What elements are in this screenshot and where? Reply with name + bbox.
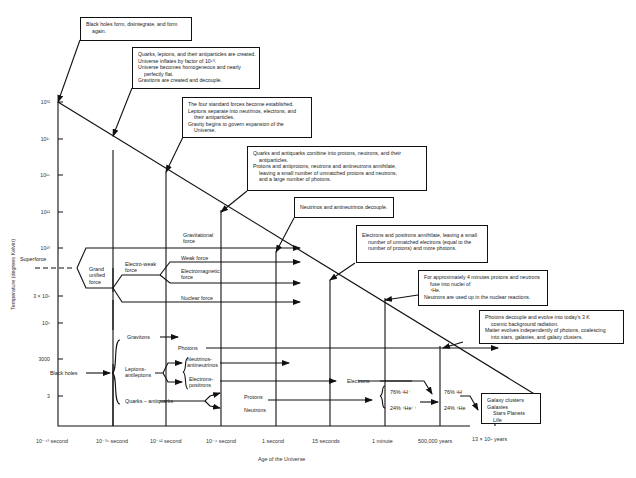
note-line: perfectly flat. [138, 71, 254, 78]
gravitons-label: Gravitons [127, 334, 150, 340]
protons-label: Protons [244, 394, 263, 400]
note-structures: Galaxy clusters Galaxies Stars Planets L… [481, 393, 541, 424]
y-tick: 10³² [16, 99, 50, 105]
label-line: force [181, 274, 220, 280]
weak-force-label: Weak force [181, 255, 208, 261]
note-line: again. [86, 28, 186, 35]
note-line: Protons and antiprotons, neutrons and an… [253, 163, 421, 170]
x-tick: 13 × 10⁹ years [472, 436, 507, 442]
label-line: force [183, 238, 213, 244]
helium-ion-label: 24% ⁴He⁺⁺ [390, 405, 418, 411]
y-tick: 10¹⁵ [16, 172, 50, 178]
note-line: Leptons separate into neutrinos, electro… [188, 108, 306, 115]
note-line: into stars, galaxies, and galaxy cluster… [485, 334, 618, 341]
electroweak-label: Electro-weak force [125, 261, 156, 274]
note-line: ⁴He. [424, 287, 542, 294]
electrons-label: Electrons [347, 378, 369, 384]
electrons-positrons-label: Electrons- positrons [189, 376, 213, 389]
photons-label: Photons [178, 345, 198, 351]
electromagnetic-force-label: Electromagnetic force [181, 268, 220, 281]
label-line: positrons [189, 382, 213, 388]
note-quarks-combine: Quarks and antiquarks combine into proto… [247, 146, 427, 191]
note-line: antiparticles. [253, 157, 421, 164]
note-line: Gravity begins to govern expansion of th… [188, 121, 306, 128]
note-line: Galaxy clusters [487, 397, 535, 404]
note-line: Universe. [188, 127, 306, 134]
note-line: Life [487, 417, 535, 424]
y-tick: 10¹² [16, 209, 50, 215]
note-line: Quarks and antiquarks combine into proto… [253, 150, 421, 157]
note-nucleosynthesis: For approximately 4 minutes protons and … [418, 270, 548, 306]
helium-atom-label: 24% ⁴He [444, 405, 466, 411]
grand-unified-label: Grand unified force [89, 266, 105, 285]
leptons-label: Leptons- antileptons [125, 366, 151, 379]
y-tick: 10²⁷ [16, 136, 50, 142]
note-line: Matter evolves independently of photons,… [485, 327, 618, 334]
note-line: their antiparticles. [188, 114, 306, 121]
note-line: Universe inflates by factor of 10⁵⁰. [138, 58, 254, 65]
label-line: antileptons [125, 372, 151, 378]
note-line: Galaxies [487, 404, 535, 411]
hydrogen-ion-label: 76% ¹H⁺ [390, 389, 411, 395]
hydrogen-atom-label: 76% ¹H [444, 389, 462, 395]
note-line: and a large number of photons. [253, 176, 421, 183]
x-axis-label: Age of the Universe [258, 456, 305, 462]
note-neutrinos-decouple: Neutrinos and antineutrinos decouple. [294, 197, 394, 218]
note-line: Neutrinos and antineutrinos decouple. [300, 204, 388, 211]
neutrinos-label: Neutrinos- antineutrinos [187, 356, 218, 369]
x-tick: 1 second [262, 438, 284, 444]
note-line: number of protons) and more photons. [362, 245, 482, 252]
note-line: The four standard forces become establis… [188, 101, 306, 108]
x-tick: 500,000 years [418, 438, 452, 444]
note-line: leaving a small number of unmatched prot… [253, 170, 421, 177]
x-tick: 10⁻³⁵ second [96, 438, 128, 444]
y-tick: 10¹⁰ [16, 245, 50, 251]
label-line: unified [89, 272, 105, 278]
note-black-holes: Black holes form, disintegrate, and form… [80, 17, 192, 41]
y-tick: 3000 [16, 356, 50, 362]
note-four-forces: The four standard forces become establis… [182, 97, 312, 138]
nuclear-force-label: Nuclear force [181, 295, 213, 301]
note-line: Gravitons are created and decouple. [138, 77, 254, 84]
note-line: Photons decouple and evolve into today's… [485, 314, 618, 321]
label-line: force [89, 279, 105, 285]
x-tick: 15 seconds [312, 438, 340, 444]
x-tick: 1 minute [372, 438, 393, 444]
label-line: force [125, 267, 156, 273]
x-tick: 10⁻⁴³ second [36, 438, 68, 444]
x-tick: 10⁻⁶ second [206, 438, 236, 444]
note-line: Universe becomes homogeneous and nearly [138, 64, 254, 71]
y-tick: 10⁶ [16, 320, 50, 326]
note-line: Stars Planets [487, 410, 535, 417]
y-tick: 3 [16, 393, 50, 399]
note-line: Black holes form, disintegrate, and form [86, 21, 186, 28]
neutrons-label: Neutrons [244, 407, 266, 413]
x-tick: 10⁻¹² second [150, 438, 181, 444]
note-line: Electrons and positrons annihilate, leav… [362, 232, 482, 239]
black-holes-label: Black holes [50, 370, 78, 376]
note-line: fuse into nuclei of [424, 281, 542, 288]
label-line: antineutrinos [187, 362, 218, 368]
superforce-label: Superforce [20, 256, 46, 262]
note-electron-positron: Electrons and positrons annihilate, leav… [356, 225, 488, 263]
note-photon-decouple: Photons decouple and evolve into today's… [479, 310, 624, 344]
y-tick: 3 × 10⁹ [16, 293, 50, 299]
note-inflation: Quarks, leptons, and their antiparticles… [132, 47, 260, 89]
note-line: Quarks, leptons, and their antiparticles… [138, 51, 254, 58]
gravitational-force-label: Gravitational force [183, 232, 213, 245]
note-line: number of unmatched electrons (equal to … [362, 239, 482, 246]
note-line: cosmic background radiation. [485, 321, 618, 328]
note-line: Neutrons are used up in the nuclear reac… [424, 294, 542, 301]
note-line: For approximately 4 minutes protons and … [424, 274, 542, 281]
quarks-label: Quarks – antiquarks [125, 398, 173, 404]
